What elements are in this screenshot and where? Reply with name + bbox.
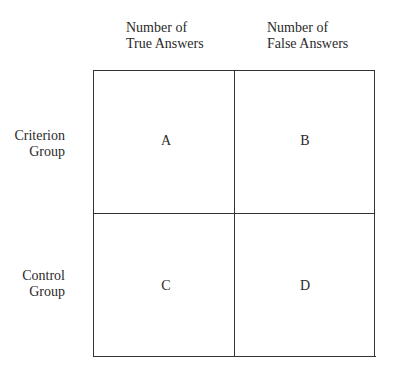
cell-b: B [295, 133, 315, 149]
grid-divider-horizontal [93, 213, 375, 214]
cell-a: A [156, 133, 176, 149]
cell-d: D [295, 278, 315, 294]
row-header-line: Criterion [14, 128, 65, 144]
column-header-line: True Answers [126, 36, 204, 52]
column-header-true-answers: Number of True Answers [126, 20, 204, 52]
column-header-line: False Answers [267, 36, 348, 52]
column-header-line: Number of [267, 20, 348, 36]
row-header-control-group: Control Group [22, 268, 65, 300]
column-header-line: Number of [126, 20, 204, 36]
row-header-line: Control [22, 268, 65, 284]
row-header-line: Group [22, 284, 65, 300]
cell-c: C [156, 278, 176, 294]
column-header-false-answers: Number of False Answers [267, 20, 348, 52]
row-header-criterion-group: Criterion Group [14, 128, 65, 160]
row-header-line: Group [14, 144, 65, 160]
contingency-table-grid: A B C D [93, 70, 375, 357]
